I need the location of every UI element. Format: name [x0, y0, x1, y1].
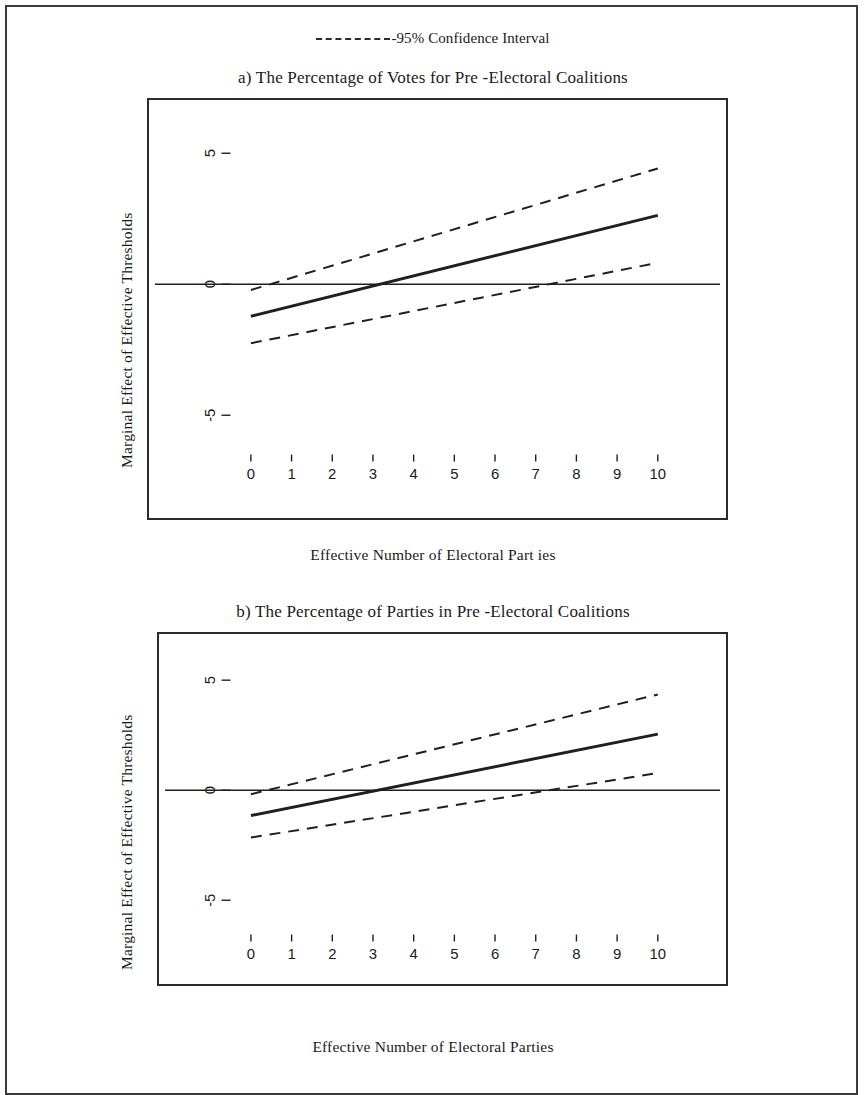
panel-b-chart-canvas: 012345678910-505	[159, 634, 726, 984]
x-axis-tick-label: 4	[410, 466, 418, 482]
dashed-line-icon	[316, 38, 390, 40]
panel-a-title: a) The Percentage of Votes for Pre -Elec…	[0, 68, 866, 88]
x-axis-tick-label: 8	[572, 466, 580, 482]
series-line	[251, 263, 658, 343]
legend: -95% Confidence Interval	[0, 26, 866, 47]
x-axis-tick-label: 3	[369, 466, 377, 482]
legend-label: -95% Confidence Interval	[391, 30, 549, 47]
x-axis-tick-label: 5	[450, 466, 458, 482]
y-axis-tick-label: -5	[202, 409, 218, 422]
x-axis-tick-label: 10	[650, 466, 667, 482]
series-line	[251, 215, 658, 316]
panel-b-x-axis-title: Effective Number of Electoral Parties	[0, 1038, 866, 1056]
y-axis-tick-label: 5	[202, 149, 218, 157]
x-axis-tick-label: 2	[328, 466, 336, 482]
x-axis-tick-label: 4	[410, 946, 418, 962]
x-axis-tick-label: 3	[369, 946, 377, 962]
x-axis-tick-label: 8	[572, 946, 580, 962]
y-axis-tick-label: 5	[202, 676, 218, 684]
x-axis-tick-label: 2	[328, 946, 336, 962]
y-axis-tick-label: 0	[202, 280, 218, 288]
panel-b-plot-area: 012345678910-505	[157, 632, 728, 986]
panel-a-y-axis-title: Marginal Effect of Effective Thresholds	[118, 213, 136, 468]
x-axis-tick-label: 5	[450, 946, 458, 962]
x-axis-tick-label: 1	[287, 946, 295, 962]
panel-b-y-axis-title: Marginal Effect of Effective Thresholds	[118, 715, 136, 970]
y-axis-tick-label: 0	[202, 786, 218, 794]
x-axis-tick-label: 10	[650, 946, 667, 962]
series-line	[251, 694, 658, 794]
series-line	[251, 734, 658, 815]
panel-a-plot-area: 012345678910-505	[147, 98, 728, 520]
panel-b-title: b) The Percentage of Parties in Pre -Ele…	[0, 602, 866, 622]
y-axis-tick-label: -5	[202, 894, 218, 907]
panel-a-chart-canvas: 012345678910-505	[149, 100, 726, 518]
x-axis-tick-label: 7	[532, 466, 540, 482]
x-axis-tick-label: 9	[613, 946, 621, 962]
x-axis-tick-label: 6	[491, 466, 499, 482]
panel-a-x-axis-title: Effective Number of Electoral Part ies	[0, 546, 866, 564]
x-axis-tick-label: 1	[287, 466, 295, 482]
x-axis-tick-label: 9	[613, 466, 621, 482]
x-axis-tick-label: 0	[247, 466, 255, 482]
series-line	[251, 773, 658, 837]
x-axis-tick-label: 7	[532, 946, 540, 962]
x-axis-tick-label: 6	[491, 946, 499, 962]
x-axis-tick-label: 0	[247, 946, 255, 962]
